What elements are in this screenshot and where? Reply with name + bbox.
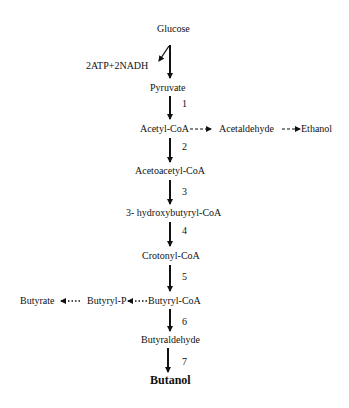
node-butanol: Butanol <box>150 373 191 387</box>
node-acetyl-coa: Acetyl-CoA <box>140 123 189 135</box>
step-label-7: 7 <box>182 356 187 368</box>
node-butyryl-p: Butyryl-P <box>87 295 126 307</box>
pathway-arrows <box>0 0 349 408</box>
node-hydroxybutyryl-coa: 3- hydroxybutyryl-CoA <box>126 207 221 219</box>
step-label-1: 1 <box>182 98 187 110</box>
step-label-5: 5 <box>182 271 187 283</box>
step-label-6: 6 <box>182 316 187 328</box>
step-label-2: 2 <box>182 141 187 153</box>
node-pyruvate: Pyruvate <box>150 82 186 94</box>
step-label-3: 3 <box>182 186 187 198</box>
node-acetoacetyl-coa: Acetoacetyl-CoA <box>135 165 205 177</box>
node-butyrate: Butyrate <box>20 295 54 307</box>
node-crotonyl-coa: Crotonyl-CoA <box>142 250 200 262</box>
node-glucose: Glucose <box>157 23 190 35</box>
step-label-4: 4 <box>182 225 187 237</box>
node-butyryl-coa: Butyryl-CoA <box>148 295 201 307</box>
node-ethanol: Ethanol <box>301 123 332 135</box>
node-butyraldehyde: Butyraldehyde <box>141 334 200 346</box>
arrow-glucose-atp <box>159 46 169 61</box>
node-atp-nadh: 2ATP+2NADH <box>86 60 148 72</box>
node-acetaldehyde: Acetaldehyde <box>219 123 274 135</box>
